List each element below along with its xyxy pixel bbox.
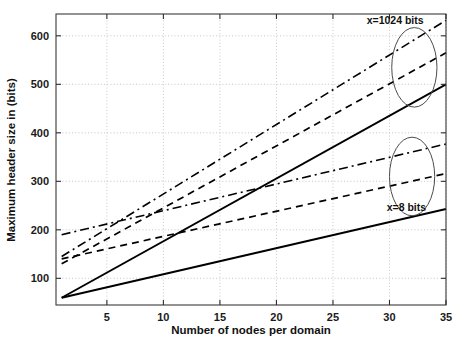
x-axis-title: Number of nodes per domain	[171, 324, 331, 336]
x-tick-label-10: 10	[157, 311, 169, 323]
maximum-header-size-line-chart: 1002003004005006005101520253035 x=1024 b…	[0, 0, 465, 350]
y-tick-label-600: 600	[31, 30, 49, 42]
figure-background	[0, 0, 465, 350]
chart-figure: 1002003004005006005101520253035 x=1024 b…	[0, 0, 465, 350]
x-tick-label-35: 35	[440, 311, 452, 323]
y-tick-label-300: 300	[31, 175, 49, 187]
x-tick-label-25: 25	[327, 311, 339, 323]
x-tick-label-5: 5	[104, 311, 110, 323]
y-tick-label-400: 400	[31, 127, 49, 139]
x-tick-label-30: 30	[383, 311, 395, 323]
y-tick-label-500: 500	[31, 78, 49, 90]
x-tick-label-20: 20	[270, 311, 282, 323]
annotation-label-1: x=8 bits	[387, 201, 427, 213]
annotation-label-0: x=1024 bits	[367, 14, 424, 26]
y-tick-label-100: 100	[31, 272, 49, 284]
y-axis-title: Maximum header size in (bits)	[5, 78, 17, 242]
x-tick-label-15: 15	[214, 311, 226, 323]
y-tick-label-200: 200	[31, 224, 49, 236]
